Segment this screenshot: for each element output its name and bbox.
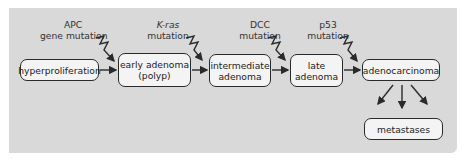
lightning-arrow-icon bbox=[186, 36, 202, 60]
arrow-down-left-icon bbox=[378, 85, 393, 104]
lightning-arrow-icon bbox=[268, 36, 285, 60]
lightning-arrow-icon bbox=[340, 36, 357, 61]
lightning-arrow-icon bbox=[96, 36, 114, 61]
connector-arrows bbox=[0, 0, 464, 163]
arrow-down-right-icon bbox=[411, 85, 427, 104]
